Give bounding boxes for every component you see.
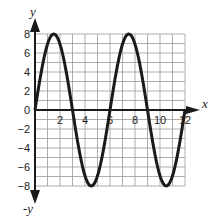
y-axis-up-arrow-icon — [30, 18, 40, 32]
y-tick-label: 4 — [24, 66, 30, 78]
y-tick-label: −4 — [17, 142, 30, 154]
y-tick-label: −6 — [17, 161, 30, 173]
y-tick-label: 8 — [24, 28, 30, 40]
y-tick-label: 0 — [24, 104, 30, 116]
x-tick-label: 4 — [82, 114, 88, 126]
x-tick-label: 8 — [132, 114, 138, 126]
x-axis-arrow-icon — [186, 106, 200, 114]
y-tick-label: −2 — [17, 123, 30, 135]
x-tick-label: 2 — [57, 114, 63, 126]
negative-y-axis-label: -y — [23, 201, 33, 216]
y-tick-label: 6 — [24, 47, 30, 59]
x-axis-label: x — [201, 96, 208, 111]
y-axis-label: y — [28, 4, 36, 19]
x-tick-label: 10 — [154, 114, 166, 126]
y-tick-label: 2 — [24, 85, 30, 97]
sine-chart: 2468101286420−2−4−6−8 x y -y — [0, 0, 214, 217]
y-tick-label: −8 — [17, 180, 30, 192]
